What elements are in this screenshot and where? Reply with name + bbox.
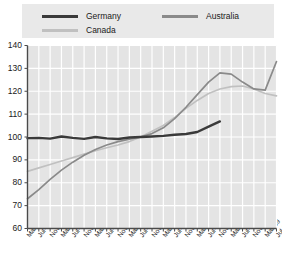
plot-area [0, 0, 282, 270]
line-chart: Germany Canada Australia 607080901001101… [0, 0, 282, 270]
